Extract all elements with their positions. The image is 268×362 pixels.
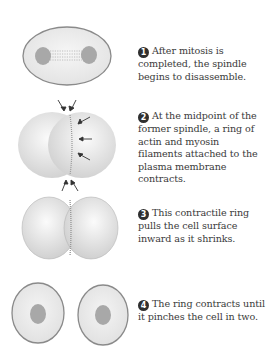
step-4: 4The ring contracts until it pinches the… [0,278,268,362]
step-number-badge: 2 [138,112,149,123]
step-2: 2At the midpoint of the former spindle, … [0,95,268,195]
step-4-caption: 4The ring contracts until it pinches the… [138,298,266,324]
step-1-caption: 1After mitosis is completed, the spindle… [138,45,266,83]
step-text: After mitosis is completed, the spindle … [138,45,247,82]
step-2-caption: 2At the midpoint of the former spindle, … [138,110,266,186]
step-3-caption: 3This contractile ring pulls the cell su… [138,207,266,245]
step-number-badge: 3 [138,209,149,220]
step-1: 1After mitosis is completed, the spindle… [0,22,268,102]
step-text: This contractile ring pulls the cell sur… [138,207,249,244]
step-3: 3This contractile ring pulls the cell su… [0,192,268,272]
cell-with-spindle-icon [0,22,130,102]
step-text: The ring contracts until it pinches the … [138,298,265,322]
two-daughter-cells-icon [0,278,130,362]
cell-contractile-ring-icon [0,95,130,195]
step-text: At the midpoint of the former spindle, a… [138,110,258,184]
step-number-badge: 4 [138,300,149,311]
cell-furrowing-icon [0,192,130,272]
step-number-badge: 1 [138,47,149,58]
